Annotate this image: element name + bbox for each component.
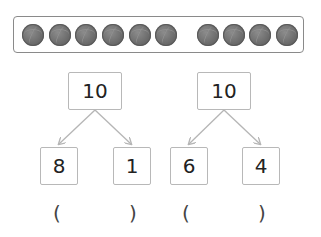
bond-arrows [0, 0, 321, 237]
tree2-left-value: 6 [183, 154, 196, 178]
number-bond-worksheet: 10 8 1 10 6 4 ( ) ( ) [0, 0, 321, 237]
tree2-top-box: 10 [197, 72, 251, 110]
answer2-close-paren: ) [258, 203, 266, 223]
tree2-right-value: 4 [255, 154, 268, 178]
tree1-left-value: 8 [53, 154, 66, 178]
tree1-top-box: 10 [68, 72, 122, 110]
answer1-open-paren: ( [53, 203, 61, 223]
tree1-left-box: 8 [40, 147, 78, 185]
tree1-top-value: 10 [82, 79, 107, 103]
answer2-open-paren: ( [182, 203, 190, 223]
tree1-right-value: 1 [126, 154, 139, 178]
tree1-right-box: 1 [113, 147, 151, 185]
tree2-left-box: 6 [170, 147, 208, 185]
tree2-right-box: 4 [242, 147, 280, 185]
tree2-top-value: 10 [211, 79, 236, 103]
answer1-close-paren: ) [129, 203, 137, 223]
